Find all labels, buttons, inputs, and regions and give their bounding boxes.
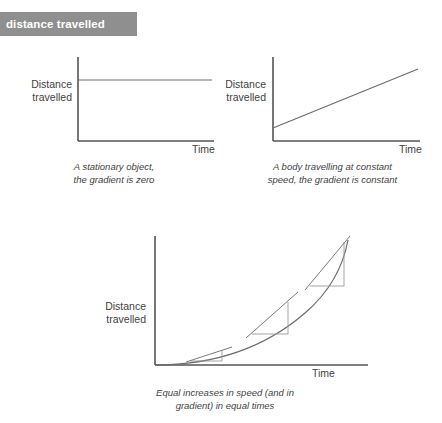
y-axis-label-line2: travelled (84, 313, 146, 326)
header-bar: distance travelled (0, 12, 137, 36)
figure-caption: A stationary object, the gradient is zer… (24, 160, 204, 186)
x-axis-label: Time (312, 367, 335, 380)
x-axis-label: Time (399, 143, 422, 156)
caption-line1: A body travelling at constant (230, 160, 435, 173)
y-axis-label: Distance travelled (204, 78, 266, 103)
y-axis-label: Distance travelled (84, 300, 146, 325)
gradient-triangle-3 (305, 236, 350, 290)
tangent-2 (246, 292, 298, 338)
chart-constant-speed (222, 55, 442, 155)
caption-line1: A stationary object, (24, 160, 204, 173)
figure-caption: Equal increases in speed (and in gradien… (110, 386, 340, 412)
chart-stationary (0, 55, 220, 155)
y-axis-label-line2: travelled (10, 91, 72, 104)
caption-line1: Equal increases in speed (and in (110, 386, 340, 399)
page-title: distance travelled (0, 18, 105, 30)
caption-line2: the gradient is zero (24, 173, 204, 186)
figure-caption: A body travelling at constant speed, the… (230, 160, 435, 186)
y-axis-label: Distance travelled (10, 78, 72, 103)
caption-line2: gradient) in equal times (110, 399, 340, 412)
tangent-3 (305, 236, 350, 290)
y-axis-label-line1: Distance (84, 300, 146, 313)
figure-stationary: Distance travelled Time A stationary obj… (0, 55, 220, 200)
x-axis-label: Time (192, 143, 215, 156)
y-axis-label-line1: Distance (10, 78, 72, 91)
data-line-constant-speed (273, 69, 418, 128)
caption-line2: speed, the gradient is constant (230, 173, 435, 186)
gradient-triangle-2 (246, 292, 298, 338)
chart-acceleration (0, 228, 442, 378)
figure-acceleration: Distance travelled Time Equal increases … (0, 228, 442, 418)
figure-constant-speed: Distance travelled Time A body travellin… (222, 55, 442, 200)
data-curve-acceleration (155, 240, 348, 365)
y-axis-label-line2: travelled (204, 91, 266, 104)
y-axis-label-line1: Distance (204, 78, 266, 91)
